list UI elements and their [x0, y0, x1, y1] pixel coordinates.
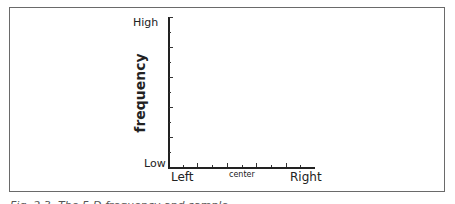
x-tick-center: center	[229, 170, 255, 179]
y-tick-mark	[169, 62, 171, 63]
x-tick-mark	[300, 165, 301, 167]
y-tick-mark	[169, 152, 171, 153]
y-tick-low: Low	[144, 157, 166, 170]
x-tick-mark	[183, 165, 184, 167]
y-tick-mark	[169, 47, 173, 48]
x-tick-mark	[197, 163, 198, 167]
x-axis	[168, 167, 315, 169]
y-tick-mark	[169, 107, 173, 108]
y-tick-mark	[169, 137, 173, 138]
figure-caption: Fig. 2.3: The 5-D frequency and sample	[10, 199, 228, 204]
x-tick-mark	[242, 165, 243, 167]
x-tick-right: Right	[290, 170, 322, 184]
x-tick-mark	[212, 165, 213, 167]
x-tick-left: Left	[171, 170, 194, 184]
y-tick-mark	[169, 32, 171, 33]
y-axis-label: frequency	[132, 53, 148, 132]
x-tick-mark	[256, 163, 257, 167]
y-tick-high: High	[133, 16, 158, 29]
y-tick-mark	[169, 122, 171, 123]
x-tick-mark	[286, 163, 287, 167]
x-tick-mark	[227, 163, 228, 167]
y-tick-mark	[169, 92, 171, 93]
y-tick-mark	[169, 17, 173, 18]
y-tick-mark	[169, 77, 173, 78]
x-tick-mark	[271, 165, 272, 167]
